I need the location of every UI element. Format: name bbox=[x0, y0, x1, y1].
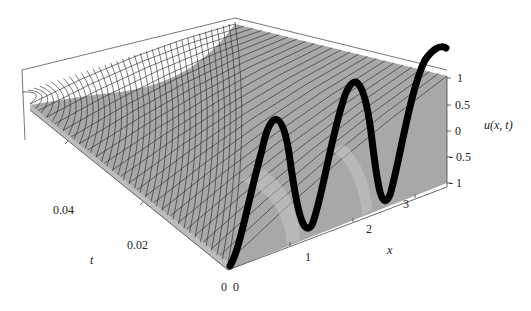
x-axis-label: x bbox=[387, 243, 392, 258]
z-tick-neg-0.5: - 0.5 bbox=[449, 150, 471, 165]
z-tick-1: 1 bbox=[457, 71, 463, 86]
surface bbox=[22, 22, 447, 270]
t-tick-0: 0 bbox=[221, 280, 227, 295]
z-tick-0: 0 bbox=[455, 124, 461, 139]
x-tick-0: 0 bbox=[233, 280, 239, 295]
t-tick-0.02: 0.02 bbox=[127, 238, 148, 253]
t-tick-0.04: 0.04 bbox=[53, 203, 74, 218]
x-tick-3: 3 bbox=[403, 197, 409, 212]
z-tick-neg-1: - 1 bbox=[449, 176, 462, 191]
t-axis-label: t bbox=[90, 253, 93, 268]
z-axis-label: u(x, t) bbox=[484, 118, 513, 133]
z-tick-0.5: 0.5 bbox=[455, 98, 470, 113]
x-tick-1: 1 bbox=[305, 250, 311, 265]
x-tick-2: 2 bbox=[366, 222, 372, 237]
